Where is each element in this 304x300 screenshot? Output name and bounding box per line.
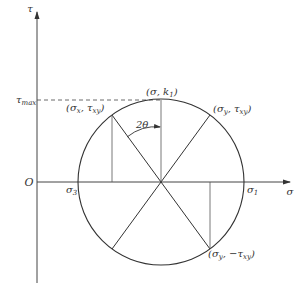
tau-axis-label: τ: [27, 3, 33, 14]
tau-max-label: τmax: [16, 94, 36, 107]
sigma-axis-label: σ: [287, 186, 295, 197]
sigma3-label: σ3: [66, 184, 78, 197]
point-y-label: (σy, τxy): [213, 103, 252, 116]
point-y-neg-label: (σy, −τxy): [208, 248, 255, 261]
sigma1-label: σ1: [247, 184, 258, 197]
origin-label: O: [24, 176, 33, 189]
top-point-label: (σ, k1): [146, 86, 178, 99]
mohr-circle-diagram: τ σ O τmax (σ, k1) 2θ (σx, τxy) (σy, τxy…: [0, 0, 304, 300]
angle-label: 2θ: [135, 119, 148, 130]
diagram-canvas: τ σ O τmax (σ, k1) 2θ (σx, τxy) (σy, τxy…: [0, 0, 304, 300]
point-x-label: (σx, τxy): [66, 102, 104, 115]
